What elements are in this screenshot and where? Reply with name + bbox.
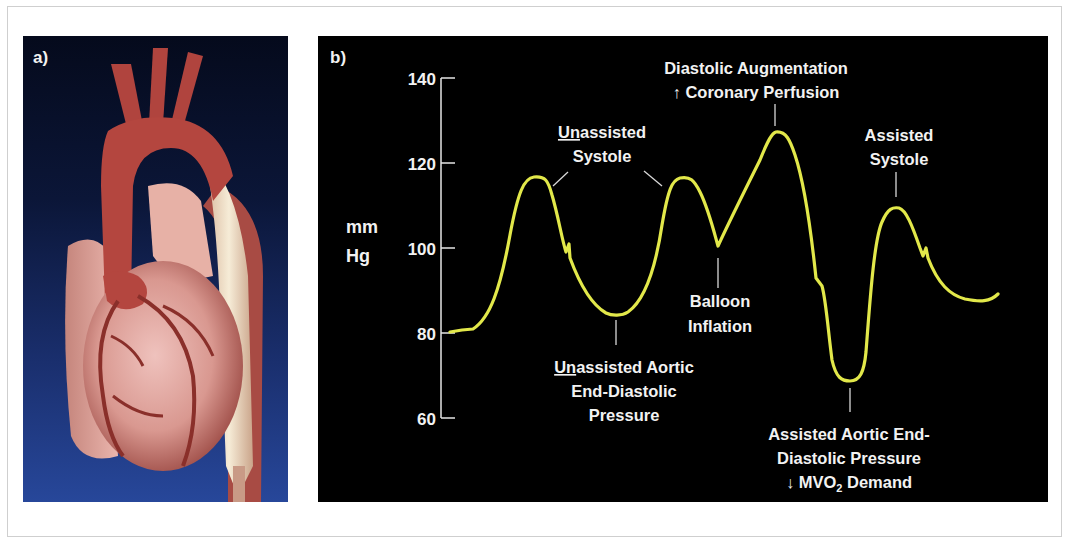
panel-b-pressure-chart: b) mm Hg 140 120 100 80 60 xyxy=(318,36,1048,502)
annotation-unassisted-edp-line3: Pressure xyxy=(589,406,660,424)
y-axis-ticks xyxy=(441,78,455,418)
annotation-diastolic-aug-line2: ↑ Coronary Perfusion xyxy=(673,83,840,101)
panel-b-label: b) xyxy=(330,48,346,68)
annotation-unassisted-systole-line2: Systole xyxy=(573,147,632,165)
mvo2-suffix: Demand xyxy=(842,473,912,491)
annotation-assisted-edp-line2: Diastolic Pressure xyxy=(777,449,921,467)
annotation-unassisted-edp-line1: Unassisted Aortic xyxy=(554,358,694,376)
annotation-unassisted-systole-rest: assisted xyxy=(580,123,646,141)
heart-illustration xyxy=(23,36,288,502)
panel-a-label: a) xyxy=(33,48,48,68)
y-axis-label-hg: Hg xyxy=(346,246,370,266)
annotation-assisted-edp-line1: Assisted Aortic End- xyxy=(768,425,930,443)
tick-label-140: 140 xyxy=(408,70,436,89)
tick-label-120: 120 xyxy=(408,155,436,174)
annotation-unassisted-systole-line1: Unassisted xyxy=(558,123,646,141)
annotation-balloon-line1: Balloon xyxy=(690,292,751,310)
underlined-un: Un xyxy=(558,123,580,141)
annotation-assisted-systole-line2: Systole xyxy=(870,150,929,168)
annotation-unassisted-edp-rest: assisted Aortic xyxy=(576,358,694,376)
aortic-pressure-waveform xyxy=(450,132,998,381)
annotation-assisted-systole-line1: Assisted xyxy=(865,126,934,144)
tick-label-100: 100 xyxy=(408,240,436,259)
mvo2-prefix: ↓ MVO xyxy=(786,473,837,491)
tick-label-80: 80 xyxy=(417,325,436,344)
annotation-assisted-edp-line3: ↓ MVO2 Demand xyxy=(786,473,912,494)
y-axis-label-mm: mm xyxy=(346,217,378,237)
annotation-diastolic-aug-line1: Diastolic Augmentation xyxy=(664,59,848,77)
underlined-un-2: Un xyxy=(554,358,576,376)
pressure-waveform-chart: mm Hg 140 120 100 80 60 xyxy=(318,36,1048,502)
panel-a-heart-illustration: a) xyxy=(23,36,288,502)
annotation-balloon-line2: Inflation xyxy=(688,317,752,335)
tick-label-60: 60 xyxy=(417,410,436,429)
annotation-unassisted-edp-line2: End-Diastolic xyxy=(571,382,676,400)
